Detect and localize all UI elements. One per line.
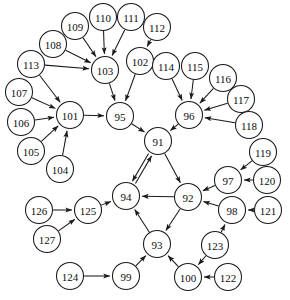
node-circle-113[interactable] <box>18 51 45 78</box>
node-circle-109[interactable] <box>62 13 89 40</box>
node-circle-110[interactable] <box>90 4 117 31</box>
node-circle-91[interactable] <box>145 128 172 155</box>
node-96[interactable]: 96 <box>176 102 203 129</box>
node-circle-102[interactable] <box>127 48 154 75</box>
edge-115-to-96 <box>191 80 193 99</box>
node-115[interactable]: 115 <box>182 53 209 80</box>
node-105[interactable]: 105 <box>18 138 45 165</box>
node-circle-126[interactable] <box>26 197 53 224</box>
node-circle-125[interactable] <box>75 197 102 224</box>
nodes-layer: 9192939495969798991001011021031041051061… <box>6 4 282 291</box>
node-107[interactable]: 107 <box>6 79 33 106</box>
node-114[interactable]: 114 <box>153 53 180 80</box>
node-102[interactable]: 102 <box>127 48 154 75</box>
node-circle-94[interactable] <box>113 183 140 210</box>
node-106[interactable]: 106 <box>8 109 35 136</box>
node-circle-105[interactable] <box>18 138 45 165</box>
node-122[interactable]: 122 <box>215 264 242 291</box>
node-circle-92[interactable] <box>175 184 202 211</box>
node-92[interactable]: 92 <box>175 184 202 211</box>
node-100[interactable]: 100 <box>175 264 202 291</box>
node-101[interactable]: 101 <box>57 102 84 129</box>
node-circle-115[interactable] <box>182 53 209 80</box>
edge-118-to-96 <box>205 118 235 123</box>
node-110[interactable]: 110 <box>90 4 117 31</box>
node-circle-101[interactable] <box>57 102 84 129</box>
node-112[interactable]: 112 <box>144 14 171 41</box>
graph-svg: 9192939495969798991001011021031041051061… <box>0 0 290 300</box>
node-circle-114[interactable] <box>153 53 180 80</box>
node-98[interactable]: 98 <box>219 197 246 224</box>
edge-127-to-125 <box>59 219 75 231</box>
node-97[interactable]: 97 <box>215 167 242 194</box>
node-104[interactable]: 104 <box>47 156 74 183</box>
node-circle-118[interactable] <box>236 112 263 139</box>
node-circle-104[interactable] <box>47 156 74 183</box>
edge-113-to-101 <box>40 75 61 102</box>
node-95[interactable]: 95 <box>107 103 134 130</box>
node-circle-116[interactable] <box>210 65 237 92</box>
node-circle-123[interactable] <box>202 232 229 259</box>
node-127[interactable]: 127 <box>34 226 61 253</box>
edge-91-to-92 <box>165 153 181 182</box>
node-circle-106[interactable] <box>8 109 35 136</box>
node-circle-96[interactable] <box>176 102 203 129</box>
edge-107-to-101 <box>32 98 55 109</box>
node-126[interactable]: 126 <box>26 197 53 224</box>
node-94[interactable]: 94 <box>113 183 140 210</box>
node-circle-124[interactable] <box>57 263 84 290</box>
edge-103-to-95 <box>109 83 115 100</box>
edge-114-to-96 <box>172 79 182 101</box>
node-125[interactable]: 125 <box>75 197 102 224</box>
node-113[interactable]: 113 <box>18 51 45 78</box>
edge-93-to-94 <box>135 210 150 233</box>
node-116[interactable]: 116 <box>210 65 237 92</box>
edge-109-to-103 <box>83 38 96 57</box>
node-103[interactable]: 103 <box>92 57 119 84</box>
node-circle-100[interactable] <box>175 264 202 291</box>
node-109[interactable]: 109 <box>62 13 89 40</box>
node-99[interactable]: 99 <box>113 263 140 290</box>
node-circle-99[interactable] <box>113 263 140 290</box>
edge-102-to-95 <box>126 74 136 101</box>
node-91[interactable]: 91 <box>145 128 172 155</box>
node-circle-103[interactable] <box>92 57 119 84</box>
node-circle-117[interactable] <box>228 86 255 113</box>
edge-91-to-94 <box>135 156 151 184</box>
node-108[interactable]: 108 <box>40 31 67 58</box>
node-circle-111[interactable] <box>118 4 145 31</box>
node-circle-98[interactable] <box>219 197 246 224</box>
node-119[interactable]: 119 <box>250 139 277 166</box>
node-circle-95[interactable] <box>107 103 134 130</box>
edge-112-to-102 <box>147 40 150 47</box>
node-circle-112[interactable] <box>144 14 171 41</box>
node-circle-108[interactable] <box>40 31 67 58</box>
node-circle-107[interactable] <box>6 79 33 106</box>
node-118[interactable]: 118 <box>236 112 263 139</box>
edge-99-to-93 <box>136 256 146 266</box>
node-circle-122[interactable] <box>215 264 242 291</box>
node-111[interactable]: 111 <box>118 4 145 31</box>
node-93[interactable]: 93 <box>144 231 171 258</box>
node-120[interactable]: 120 <box>254 167 281 194</box>
node-121[interactable]: 121 <box>255 197 282 224</box>
edge-116-to-96 <box>200 88 214 103</box>
node-124[interactable]: 124 <box>57 263 84 290</box>
edge-100-to-93 <box>168 256 178 267</box>
node-circle-127[interactable] <box>34 226 61 253</box>
node-circle-121[interactable] <box>255 197 282 224</box>
node-circle-120[interactable] <box>254 167 281 194</box>
edge-98-to-92 <box>203 202 218 206</box>
edge-95-to-91 <box>132 124 145 132</box>
edge-117-to-96 <box>204 103 227 110</box>
edge-106-to-101 <box>35 117 54 120</box>
node-circle-119[interactable] <box>250 139 277 166</box>
edge-97-to-92 <box>203 186 215 191</box>
node-circle-97[interactable] <box>215 167 242 194</box>
graph-diagram: 9192939495969798991001011021031041051061… <box>0 0 290 300</box>
edge-111-to-103 <box>112 30 125 56</box>
node-117[interactable]: 117 <box>228 86 255 113</box>
edge-125-to-94 <box>101 202 111 206</box>
node-123[interactable]: 123 <box>202 232 229 259</box>
node-circle-93[interactable] <box>144 231 171 258</box>
